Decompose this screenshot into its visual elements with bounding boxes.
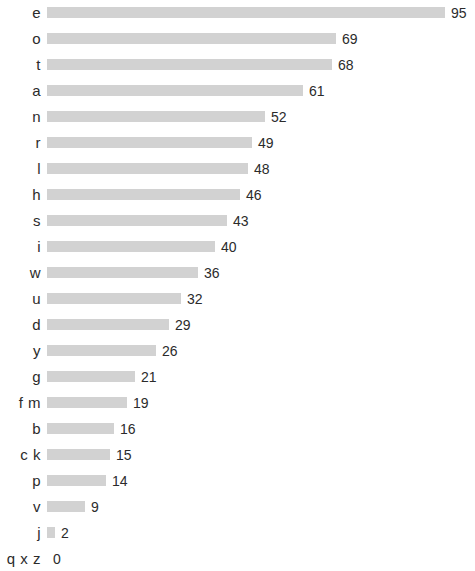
bar <box>47 475 106 486</box>
bar-value-label: 2 <box>55 520 69 546</box>
category-label: j <box>0 520 41 546</box>
bar <box>47 241 215 252</box>
bar-value-label: 32 <box>181 286 203 312</box>
category-label: t <box>0 52 41 78</box>
category-label: l <box>0 156 41 182</box>
bar <box>47 215 227 226</box>
bar <box>47 397 127 408</box>
bar-value-label: 0 <box>47 546 61 571</box>
bar-row: u32 <box>0 286 475 312</box>
bar-value-label: 16 <box>114 416 136 442</box>
bar-row: r49 <box>0 130 475 156</box>
bar-value-label: 21 <box>135 364 157 390</box>
category-label: c k <box>0 442 41 468</box>
bar-row: b16 <box>0 416 475 442</box>
category-label: v <box>0 494 41 520</box>
category-label: d <box>0 312 41 338</box>
category-label: p <box>0 468 41 494</box>
bar <box>47 163 248 174</box>
bar-row: d29 <box>0 312 475 338</box>
bar <box>47 423 114 434</box>
bar <box>47 137 252 148</box>
category-label: w <box>0 260 41 286</box>
category-label: o <box>0 26 41 52</box>
bar <box>47 189 240 200</box>
bar <box>47 319 169 330</box>
bar-row: p14 <box>0 468 475 494</box>
bar-value-label: 40 <box>215 234 237 260</box>
bar <box>47 449 110 460</box>
category-label: q x z <box>0 546 41 571</box>
bar <box>47 527 55 538</box>
bar <box>47 33 336 44</box>
bar-value-label: 61 <box>303 78 325 104</box>
bar <box>47 111 265 122</box>
bar-value-label: 48 <box>248 156 270 182</box>
bar-value-label: 95 <box>445 0 467 26</box>
bar-value-label: 29 <box>169 312 191 338</box>
bar-row: o69 <box>0 26 475 52</box>
bar-row: w36 <box>0 260 475 286</box>
bar-row: v9 <box>0 494 475 520</box>
category-label: f m <box>0 390 41 416</box>
category-label: u <box>0 286 41 312</box>
category-label: e <box>0 0 41 26</box>
category-label: g <box>0 364 41 390</box>
bar-row: g21 <box>0 364 475 390</box>
bar <box>47 345 156 356</box>
bar-row: h46 <box>0 182 475 208</box>
bar-row: q x z0 <box>0 546 475 571</box>
bar-value-label: 49 <box>252 130 274 156</box>
category-label: a <box>0 78 41 104</box>
bar-row: f m19 <box>0 390 475 416</box>
category-label: h <box>0 182 41 208</box>
bar-value-label: 69 <box>336 26 358 52</box>
bar-value-label: 68 <box>332 52 354 78</box>
bar-row: t68 <box>0 52 475 78</box>
bar-row: n52 <box>0 104 475 130</box>
bar <box>47 7 445 18</box>
bar <box>47 293 181 304</box>
bar-value-label: 15 <box>110 442 132 468</box>
bar-value-label: 26 <box>156 338 178 364</box>
bar-value-label: 36 <box>198 260 220 286</box>
bar-row: i40 <box>0 234 475 260</box>
bar <box>47 501 85 512</box>
bar-row: y26 <box>0 338 475 364</box>
category-label: y <box>0 338 41 364</box>
bar-value-label: 46 <box>240 182 262 208</box>
category-label: n <box>0 104 41 130</box>
bar-row: s43 <box>0 208 475 234</box>
category-label: i <box>0 234 41 260</box>
bar-row: l48 <box>0 156 475 182</box>
bar-value-label: 9 <box>85 494 99 520</box>
bar-row: e95 <box>0 0 475 26</box>
bar-row: a61 <box>0 78 475 104</box>
bar-value-label: 52 <box>265 104 287 130</box>
bar-value-label: 19 <box>127 390 149 416</box>
category-label: b <box>0 416 41 442</box>
category-label: r <box>0 130 41 156</box>
category-label: s <box>0 208 41 234</box>
bar <box>47 371 135 382</box>
bar <box>47 59 332 70</box>
bar <box>47 267 198 278</box>
bar-row: j2 <box>0 520 475 546</box>
bar-value-label: 43 <box>227 208 249 234</box>
bar-value-label: 14 <box>106 468 128 494</box>
bar-row: c k15 <box>0 442 475 468</box>
bar <box>47 85 303 96</box>
